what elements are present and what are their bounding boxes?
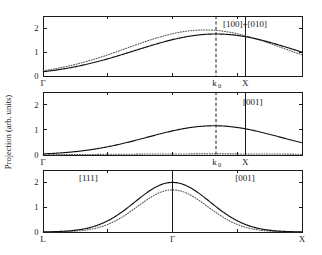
x-tick-label: Γ: [40, 157, 45, 167]
panel-1: 012ΓXk0[100]+[010]: [34, 16, 302, 89]
curve-dotted: [43, 30, 302, 71]
panel-frame: [43, 92, 302, 155]
y-tick-label: 1: [34, 125, 38, 135]
panel-label-left: [111]: [79, 173, 98, 183]
curve-solid: [43, 34, 302, 72]
y-tick-label: 0: [34, 150, 38, 160]
x-tick-label: L: [40, 234, 46, 244]
panel-label: [100]+[010]: [223, 19, 267, 29]
x-tick-label: Γ: [40, 78, 45, 88]
y-tick-label: 2: [34, 100, 38, 110]
y-tick-label: 0: [34, 227, 38, 237]
x-tick-label: X: [242, 157, 249, 167]
panel-3: 012LΓX[111][001]: [34, 170, 306, 244]
marker-sublabel-k0: 0: [218, 82, 221, 89]
marker-label-k0: k: [212, 78, 217, 88]
panel-2: 012ΓXk0[001]: [34, 92, 302, 168]
y-axis-title-group: Projection (arb. units): [3, 95, 13, 170]
marker-sublabel-k0: 0: [218, 161, 221, 168]
y-tick-label: 1: [34, 202, 38, 212]
panel-label-right: [001]: [235, 173, 255, 183]
x-tick-label: X: [242, 78, 249, 88]
x-tick-label: Γ: [170, 234, 175, 244]
y-tick-label: 2: [34, 23, 38, 33]
projection-figure: Projection (arb. units) 012ΓXk0[100]+[01…: [0, 0, 322, 255]
panel-label: [001]: [243, 97, 263, 107]
y-tick-label: 0: [34, 71, 38, 81]
panels-root: 012ΓXk0[100]+[010]012ΓXk0[001]012LΓX[111…: [34, 16, 306, 244]
x-tick-label: X: [299, 234, 306, 244]
y-axis-title: Projection (arb. units): [3, 95, 13, 170]
figure-canvas: Projection (arb. units) 012ΓXk0[100]+[01…: [0, 0, 322, 255]
marker-label-k0: k: [212, 157, 217, 167]
curve-solid: [43, 126, 302, 154]
y-tick-label: 2: [34, 177, 38, 187]
y-tick-label: 1: [34, 47, 38, 57]
